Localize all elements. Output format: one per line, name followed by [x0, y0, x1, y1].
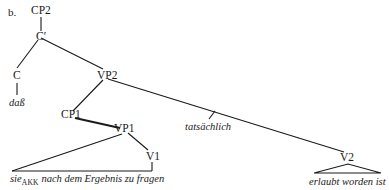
leaf-tatsaechlich: tatsächlich [185, 121, 231, 133]
edge-vp1-triangle-left [12, 134, 122, 171]
edge-cbar-c [17, 40, 38, 68]
edge-cbar-vp2 [41, 38, 103, 69]
edge-vp1-v1 [128, 133, 148, 150]
node-vp2: VP2 [97, 69, 117, 81]
node-cp1: CP1 [61, 108, 81, 120]
node-v2: V2 [340, 151, 354, 163]
node-cp2: CP2 [31, 4, 51, 16]
leaf-vp1-rest: nach dem Ergebnis zu fragen [39, 173, 164, 184]
tree-edges [0, 0, 389, 190]
node-cbar: C′ [36, 30, 46, 42]
node-vp1: VP1 [114, 122, 134, 134]
example-label: b. [8, 6, 16, 18]
case-subscript: AKK [22, 178, 39, 187]
leaf-sie: sie [10, 173, 22, 184]
edge-vp2-v2 [108, 79, 344, 152]
edge-vp2-cp1 [73, 80, 103, 111]
node-v1: V1 [146, 150, 160, 162]
triangle-v2 [314, 164, 381, 173]
leaf-vp1-phrase: sieAKK nach dem Ergebnis zu fragen [10, 173, 164, 189]
node-c: C [13, 69, 21, 81]
edge-tatsaechlich [209, 111, 215, 119]
leaf-dass: daß [9, 97, 25, 109]
leaf-v2-phrase: erlaubt worden ist [309, 176, 386, 188]
